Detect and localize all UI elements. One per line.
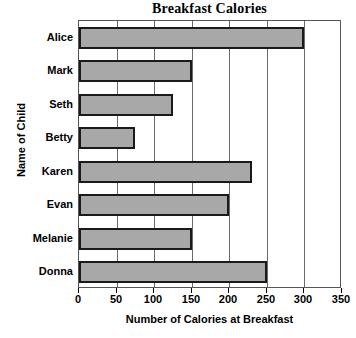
bar-row bbox=[79, 60, 342, 82]
bar-row bbox=[79, 27, 342, 49]
bar-betty[interactable] bbox=[79, 127, 135, 149]
bar-evan[interactable] bbox=[79, 194, 229, 216]
bar-row bbox=[79, 161, 342, 183]
x-tick-label-250: 250 bbox=[246, 293, 286, 305]
bar-mark[interactable] bbox=[79, 60, 192, 82]
bar-row bbox=[79, 127, 342, 149]
y-tick-label-alice: Alice bbox=[3, 31, 73, 43]
x-axis-title: Number of Calories at Breakfast bbox=[78, 313, 341, 325]
bar-row bbox=[79, 228, 342, 250]
x-tick-label-200: 200 bbox=[208, 293, 248, 305]
x-tick-label-350: 350 bbox=[321, 293, 356, 305]
y-tick-label-evan: Evan bbox=[3, 198, 73, 210]
x-tick-label-50: 50 bbox=[96, 293, 136, 305]
bar-row bbox=[79, 261, 342, 283]
y-tick-label-donna: Donna bbox=[3, 265, 73, 277]
bar-donna[interactable] bbox=[79, 261, 267, 283]
y-tick-label-seth: Seth bbox=[3, 98, 73, 110]
x-tick-label-150: 150 bbox=[171, 293, 211, 305]
bar-chart: Breakfast Calories Name of Child Number … bbox=[0, 0, 356, 338]
bar-row bbox=[79, 94, 342, 116]
x-tick-label-0: 0 bbox=[58, 293, 98, 305]
plot-area bbox=[78, 20, 341, 288]
bar-alice[interactable] bbox=[79, 27, 304, 49]
bar-melanie[interactable] bbox=[79, 228, 192, 250]
y-tick-label-melanie: Melanie bbox=[3, 232, 73, 244]
bar-row bbox=[79, 194, 342, 216]
chart-title: Breakfast Calories bbox=[78, 1, 341, 17]
x-tick-label-300: 300 bbox=[283, 293, 323, 305]
y-tick-label-karen: Karen bbox=[3, 165, 73, 177]
x-tick-label-100: 100 bbox=[133, 293, 173, 305]
y-tick-label-betty: Betty bbox=[3, 131, 73, 143]
bar-seth[interactable] bbox=[79, 94, 173, 116]
bar-karen[interactable] bbox=[79, 161, 252, 183]
y-tick-label-mark: Mark bbox=[3, 64, 73, 76]
